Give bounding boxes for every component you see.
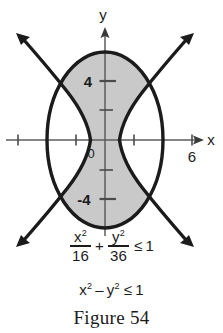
x-axis-label: x [207,131,215,148]
exponent-2: 2 [120,228,125,238]
term-x-squared: x2 [79,282,92,297]
fraction-denominator: 16 [70,247,91,263]
origin-label: 0 [87,146,94,161]
term-y-squared: y2 [107,282,120,297]
y-tick-label-minus-4: -4 [77,191,91,208]
variable-y: y [112,228,120,245]
fraction-y-squared-over-36: y2 36 [108,229,129,263]
inequality-second: x2 – y2 ≤ 1 [0,281,223,299]
x-tick-label-6: 6 [188,148,196,165]
fraction-numerator: y2 [110,229,127,245]
operator-minus: – [95,282,104,297]
right-hand-side: 1 [135,282,144,297]
variable-x: x [79,281,87,298]
y-tick-label-4: 4 [84,73,93,90]
right-hand-side: 1 [146,238,155,253]
inequality-first: x2 16 + y2 36 ≤ 1 [0,228,223,263]
exponent-2: 2 [87,281,92,291]
figure-54: y x 0 4 -4 6 x2 16 + y2 36 ≤ 1 [0,0,223,333]
inequality-second-line: x2 – y2 ≤ 1 [79,282,143,297]
figure-caption: Figure 54 [0,307,223,329]
operator-plus: + [95,238,104,253]
exponent-2: 2 [114,281,119,291]
variable-x: x [74,228,82,245]
y-axis-label: y [99,6,107,23]
relation-less-than-or-equal: ≤ [124,282,132,297]
inequality-first-line: x2 16 + y2 36 ≤ 1 [69,229,154,263]
fraction-denominator: 36 [108,247,129,263]
fraction-x-squared-over-16: x2 16 [70,229,91,263]
relation-less-than-or-equal: ≤ [134,238,142,253]
exponent-2: 2 [82,228,87,238]
fraction-numerator: x2 [72,229,89,245]
